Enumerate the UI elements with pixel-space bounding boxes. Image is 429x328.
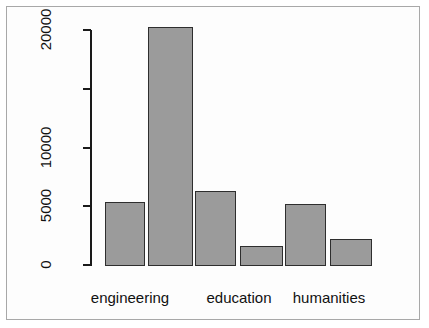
bar (195, 191, 236, 266)
y-axis-tick (83, 147, 91, 149)
bar (105, 202, 145, 266)
y-axis-tick (83, 264, 91, 266)
y-axis-tick (83, 88, 91, 90)
y-axis-tick (83, 29, 91, 31)
x-axis-tick-label: humanities (259, 289, 399, 306)
y-axis-tick-label: 20000 (37, 0, 54, 65)
bar (330, 239, 372, 266)
chart-figure: 050001000020000 engineeringeducationhuma… (0, 0, 429, 328)
bar (285, 204, 326, 266)
bar (148, 27, 193, 266)
bar (240, 246, 283, 266)
y-axis-tick-label: 10000 (37, 112, 54, 182)
y-axis-tick (83, 205, 91, 207)
plot-area: 050001000020000 engineeringeducationhuma… (0, 0, 429, 328)
